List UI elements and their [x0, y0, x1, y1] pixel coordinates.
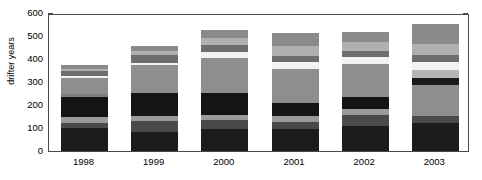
- bar-2000: [201, 30, 248, 151]
- bar-segment: [201, 52, 248, 58]
- bar-segment: [272, 33, 319, 46]
- bar-segment: [201, 93, 248, 115]
- bar-segment: [412, 123, 459, 151]
- bar-segment: [131, 116, 178, 121]
- bar-segment: [342, 57, 389, 64]
- bar-1998: [61, 65, 108, 151]
- x-tick-label: 2003: [404, 156, 464, 167]
- bar-segment: [61, 76, 108, 78]
- bar-segment: [412, 116, 459, 123]
- bar-segment: [272, 46, 319, 56]
- bar-segment: [131, 93, 178, 116]
- bar-segment: [201, 45, 248, 52]
- bar-2002: [342, 32, 389, 151]
- bar-segment: [61, 123, 108, 128]
- y-tick-label: 300: [0, 76, 43, 87]
- bar-segment: [412, 44, 459, 56]
- bar-2001: [272, 33, 319, 151]
- bar-segment: [61, 117, 108, 123]
- bar-segment: [61, 71, 108, 76]
- bar-segment: [61, 94, 108, 97]
- bar-segment: [272, 103, 319, 116]
- bar-segment: [412, 55, 459, 61]
- bar-segment: [272, 116, 319, 122]
- bar-segment: [342, 32, 389, 42]
- bar-segment: [201, 58, 248, 93]
- bar-segment: [272, 129, 319, 151]
- bar-segment: [61, 69, 108, 71]
- bar-segment: [131, 65, 178, 93]
- y-tick-label: 400: [0, 53, 43, 64]
- bar-segment: [61, 65, 108, 68]
- x-tick-label: 2001: [264, 156, 324, 167]
- bar-segment: [61, 78, 108, 94]
- bar-segment: [412, 62, 459, 70]
- bar-segment: [201, 120, 248, 129]
- bar-segment: [342, 126, 389, 151]
- bar-segment: [412, 78, 459, 85]
- bar-segment: [131, 46, 178, 51]
- bar-segment: [131, 63, 178, 66]
- bar-segment: [412, 24, 459, 44]
- y-tick-label: 0: [0, 145, 43, 156]
- bar-segment: [201, 129, 248, 151]
- bar-segment: [131, 121, 178, 132]
- bar-1999: [131, 46, 178, 151]
- bar-segment: [272, 122, 319, 129]
- bar-2003: [412, 24, 459, 151]
- bar-segment: [342, 64, 389, 97]
- bar-segment: [61, 97, 108, 117]
- x-tick-label: 1999: [124, 156, 184, 167]
- bar-segment: [201, 30, 248, 38]
- y-tick-label: 600: [0, 7, 43, 18]
- bar-segment: [272, 62, 319, 68]
- bar-segment: [342, 109, 389, 115]
- bar-segment: [412, 70, 459, 78]
- bar-segment: [342, 51, 389, 57]
- bar-segment: [201, 115, 248, 120]
- bar-segment: [201, 38, 248, 46]
- bar-segment: [131, 51, 178, 56]
- bar-segment: [342, 115, 389, 126]
- x-tick-label: 2002: [334, 156, 394, 167]
- chart-figure: drifter years 0100200300400500600 199819…: [0, 0, 482, 180]
- y-tick-label: 500: [0, 30, 43, 41]
- bar-segment: [131, 132, 178, 151]
- y-tick-label: 200: [0, 99, 43, 110]
- bar-segment: [61, 128, 108, 151]
- x-tick-label: 2000: [194, 156, 254, 167]
- plot-area: [48, 14, 469, 152]
- bar-segment: [342, 42, 389, 51]
- bar-segment: [272, 56, 319, 62]
- y-tick-label: 100: [0, 122, 43, 133]
- bar-segment: [342, 97, 389, 109]
- bar-segment: [131, 55, 178, 63]
- bar-segment: [412, 85, 459, 116]
- x-tick-label: 1998: [54, 156, 114, 167]
- bar-segment: [272, 69, 319, 103]
